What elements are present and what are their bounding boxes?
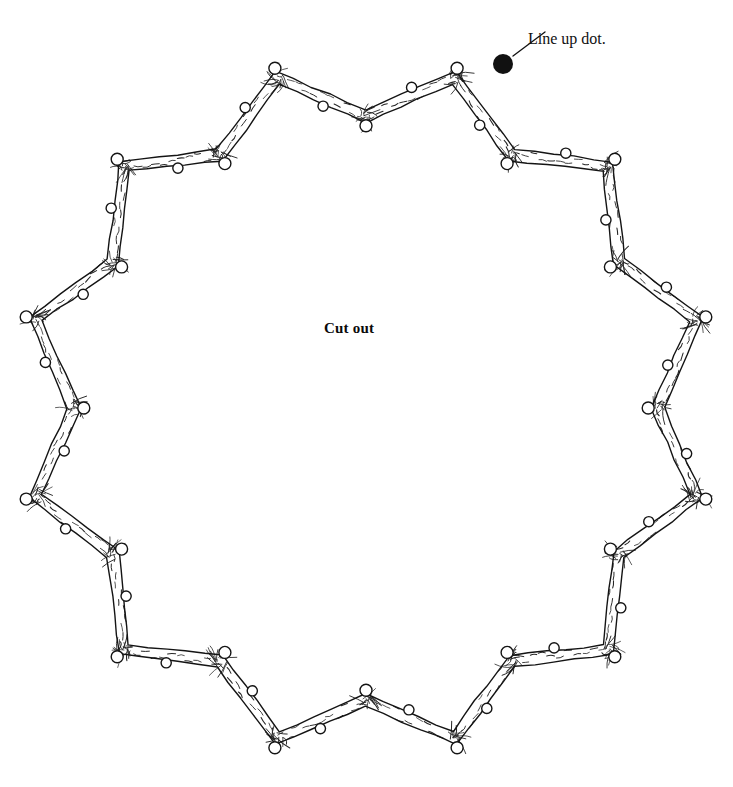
puzzle-ring	[20, 62, 712, 754]
star-ring-drawing	[0, 0, 733, 787]
pattern-canvas: Cut out Line up dot.	[0, 0, 733, 787]
cut-out-label: Cut out	[324, 320, 374, 337]
line-up-dot	[493, 54, 513, 74]
line-up-dot-label: Line up dot.	[528, 30, 606, 48]
